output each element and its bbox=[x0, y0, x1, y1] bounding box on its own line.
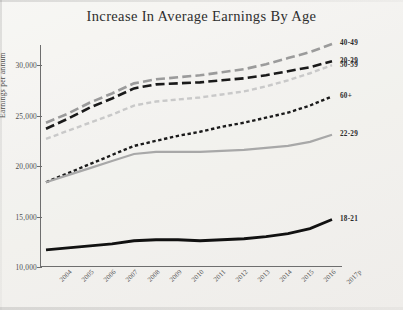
x-tick-label: 2016 bbox=[322, 268, 337, 283]
x-tick-label: 2006 bbox=[102, 268, 117, 283]
x-tick-label: 2004 bbox=[58, 268, 73, 283]
series-label-22-29: 22-29 bbox=[340, 130, 358, 138]
x-tick-label: 2011 bbox=[212, 268, 227, 283]
x-tick-label: 2014 bbox=[278, 268, 293, 283]
x-tick-label: 2008 bbox=[146, 268, 161, 283]
series-label-30-39: 30-39 bbox=[340, 57, 358, 65]
x-tick-label: 2007 bbox=[124, 268, 139, 283]
series-line-18-21 bbox=[46, 220, 332, 250]
series-label-60plus: 60+ bbox=[340, 92, 352, 100]
x-tick-label: 2013 bbox=[256, 268, 271, 283]
series-label-18-21: 18-21 bbox=[340, 215, 358, 223]
series-line-22-29 bbox=[46, 135, 332, 182]
chart-figure: Increase In Average Earnings By Age Earn… bbox=[0, 0, 403, 310]
x-tick-label: 2005 bbox=[80, 268, 95, 283]
series-label-40-49: 40-49 bbox=[340, 39, 358, 47]
x-tick-label: 2010 bbox=[190, 268, 205, 283]
series-line-30-39 bbox=[46, 61, 332, 129]
x-axis-tick-labels: 2004200520062007200820092010201120122013… bbox=[40, 268, 342, 308]
x-tick-label: 2015 bbox=[300, 268, 315, 283]
x-tick-label: 2012 bbox=[234, 268, 249, 283]
x-tick-label: 2009 bbox=[168, 268, 183, 283]
